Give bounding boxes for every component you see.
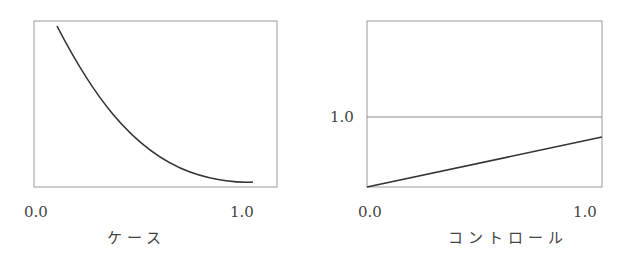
charts-canvas [0, 0, 623, 259]
left-x-tick-0: 0.0 [24, 203, 48, 221]
right-line [367, 137, 602, 187]
left-plot-frame [34, 21, 277, 187]
right-x-tick-0: 0.0 [358, 203, 382, 221]
right-x-tick-1: 1.0 [573, 203, 597, 221]
left-curve [57, 26, 253, 182]
left-x-tick-1: 1.0 [230, 203, 254, 221]
left-x-axis-label: ケース [107, 226, 166, 247]
right-y-tick-1: 1.0 [330, 108, 354, 126]
right-x-axis-label: コントロール [448, 226, 568, 247]
